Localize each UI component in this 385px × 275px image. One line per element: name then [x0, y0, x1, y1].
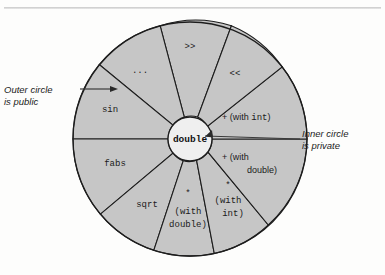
callout-inner-circle-is-private: Inner circle is private [302, 128, 382, 151]
label-fabs: fabs [104, 159, 126, 169]
label-mul-double-line1: * [185, 189, 190, 199]
center-label-double: double [173, 134, 208, 145]
callout-outer-circle-is-public: Outer circle is public [4, 84, 80, 107]
label-mul-int-line3: int) [222, 209, 244, 219]
label-add-int: + (with int) [222, 112, 270, 123]
label-sqrt: sqrt [136, 200, 158, 210]
label-mul-int-line2: (with [214, 196, 241, 206]
label-add-double-line2: double) [247, 165, 277, 175]
label-shift-right: >> [185, 42, 196, 52]
label-sin: sin [102, 105, 118, 115]
label-add-int-type: int [251, 113, 267, 123]
label-add-int-prefix: + (with [222, 112, 251, 122]
label-ellipsis: ... [132, 66, 148, 76]
label-mul-double-line3: double) [169, 220, 207, 230]
label-shift-left: << [230, 69, 241, 79]
label-add-double-line1: + (with [222, 152, 249, 162]
label-mul-int-line1: * [225, 181, 230, 191]
label-add-int-suffix: ) [267, 112, 270, 122]
label-mul-double-line2: (with [174, 207, 201, 217]
diagram-page: >> ... sin fabs sqrt * (with double) * (… [0, 0, 385, 275]
